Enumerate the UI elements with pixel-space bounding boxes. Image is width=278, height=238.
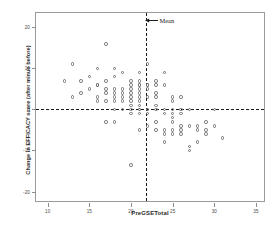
data-point <box>96 95 100 99</box>
data-point <box>154 120 158 124</box>
data-point <box>88 75 92 79</box>
data-point <box>121 99 125 103</box>
scatter-plot-figure: 10152025303520100-10-20 PreGSETotal Chan… <box>0 0 278 238</box>
data-point <box>113 120 117 124</box>
data-point <box>171 128 175 132</box>
x-axis-tick <box>131 203 132 207</box>
data-point <box>171 116 175 120</box>
data-point <box>121 87 125 91</box>
data-point <box>154 104 158 108</box>
data-point <box>138 87 142 91</box>
data-point <box>196 140 200 144</box>
data-point <box>121 91 125 95</box>
mean-annotation: Mean <box>145 17 175 24</box>
data-point <box>96 67 100 71</box>
data-point <box>179 112 183 116</box>
data-point <box>104 91 108 95</box>
data-point <box>196 128 200 132</box>
x-axis-tick <box>48 203 49 207</box>
data-point <box>138 104 142 108</box>
data-point <box>163 128 167 132</box>
data-point <box>163 132 167 136</box>
plot-frame: 10152025303520100-10-20 <box>35 12 265 202</box>
y-axis-tick <box>32 192 36 193</box>
data-point <box>138 108 142 112</box>
data-point <box>154 83 158 87</box>
data-point <box>179 124 183 128</box>
data-point <box>146 87 150 91</box>
data-point <box>129 79 133 83</box>
data-point <box>138 112 142 116</box>
data-point <box>171 99 175 103</box>
x-axis-tick <box>214 203 215 207</box>
data-point <box>163 71 167 75</box>
data-point <box>104 120 108 124</box>
data-point <box>188 149 192 153</box>
data-point <box>204 132 208 136</box>
data-point <box>171 112 175 116</box>
data-point <box>71 62 75 66</box>
data-point <box>104 79 108 83</box>
data-point <box>146 108 150 112</box>
data-point <box>163 112 167 116</box>
x-axis-tick <box>256 203 257 207</box>
data-point <box>221 136 225 140</box>
data-point <box>79 91 83 95</box>
data-point <box>129 112 133 116</box>
data-point <box>188 124 192 128</box>
data-point <box>196 124 200 128</box>
data-point <box>113 91 117 95</box>
reference-line-vertical-mean <box>146 13 147 201</box>
y-axis-tick <box>32 109 36 110</box>
data-point <box>163 83 167 87</box>
data-point <box>179 108 183 112</box>
data-point <box>171 108 175 112</box>
data-point <box>138 71 142 75</box>
data-point <box>71 95 75 99</box>
y-axis-tick <box>32 68 36 69</box>
data-point <box>88 87 92 91</box>
data-point <box>113 108 117 112</box>
data-point <box>163 140 167 144</box>
data-point <box>146 95 150 99</box>
mean-arrow-icon <box>145 17 159 24</box>
data-point <box>129 95 133 99</box>
data-point <box>129 87 133 91</box>
data-point <box>113 75 117 79</box>
data-point <box>204 120 208 124</box>
plot-area <box>36 13 264 201</box>
data-point <box>138 95 142 99</box>
data-point <box>104 87 108 91</box>
x-axis-tick <box>89 203 90 207</box>
data-point <box>154 128 158 132</box>
data-point <box>138 91 142 95</box>
data-point <box>179 95 183 99</box>
data-point <box>188 108 192 112</box>
data-point <box>104 42 108 46</box>
data-point <box>138 79 142 83</box>
data-point <box>179 128 183 132</box>
data-point <box>113 67 117 71</box>
data-point <box>96 99 100 103</box>
data-point <box>104 99 108 103</box>
data-point <box>96 83 100 87</box>
data-point <box>171 132 175 136</box>
data-point <box>121 108 125 112</box>
data-point <box>129 104 133 108</box>
data-point <box>79 79 83 83</box>
data-point <box>154 79 158 83</box>
data-point <box>213 108 217 112</box>
data-point <box>171 95 175 99</box>
mean-label: Mean <box>160 17 175 24</box>
data-point <box>171 120 175 124</box>
data-point <box>63 79 67 83</box>
data-point <box>146 83 150 87</box>
data-point <box>163 108 167 112</box>
data-point <box>154 108 158 112</box>
data-point <box>204 128 208 132</box>
data-point <box>188 145 192 149</box>
data-point <box>113 95 117 99</box>
data-point <box>138 99 142 103</box>
y-axis-tick <box>32 150 36 151</box>
data-point <box>121 95 125 99</box>
